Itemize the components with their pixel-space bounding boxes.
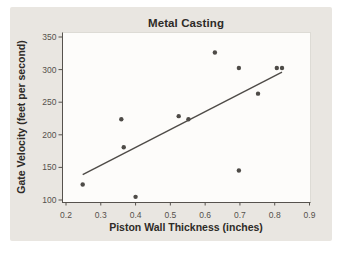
y-axis-label: Gate Velocity (feet per second) [15, 40, 27, 193]
y-tick-label: 200 [42, 130, 56, 140]
y-tick-label: 100 [42, 195, 56, 205]
data-point [177, 114, 181, 118]
y-tick-label: 350 [42, 32, 56, 42]
x-tick-label: 0.4 [130, 210, 142, 220]
x-tick-label: 0.5 [164, 210, 176, 220]
chart-screenshot: Metal Casting 0.20.30.40.50.60.70.80.910… [0, 0, 337, 259]
x-tick-label: 0.8 [269, 210, 281, 220]
x-tick-label: 0.6 [199, 210, 211, 220]
x-tick-label: 0.9 [304, 210, 316, 220]
data-point [275, 66, 279, 70]
x-tick-label: 0.7 [234, 210, 246, 220]
data-point [237, 66, 241, 70]
data-point [256, 91, 260, 95]
data-point [80, 182, 84, 186]
trend-line [83, 72, 282, 175]
y-tick-label: 300 [42, 65, 56, 75]
data-point [119, 117, 123, 121]
y-tick-label: 250 [42, 97, 56, 107]
data-point [133, 195, 137, 199]
x-axis-label: Piston Wall Thickness (inches) [62, 221, 310, 233]
data-point [237, 168, 241, 172]
y-tick-label: 150 [42, 162, 56, 172]
x-tick-label: 0.2 [60, 210, 72, 220]
data-point [213, 50, 217, 54]
x-tick-label: 0.3 [95, 210, 107, 220]
data-point [280, 66, 284, 70]
data-point [122, 145, 126, 149]
data-point [186, 117, 190, 121]
